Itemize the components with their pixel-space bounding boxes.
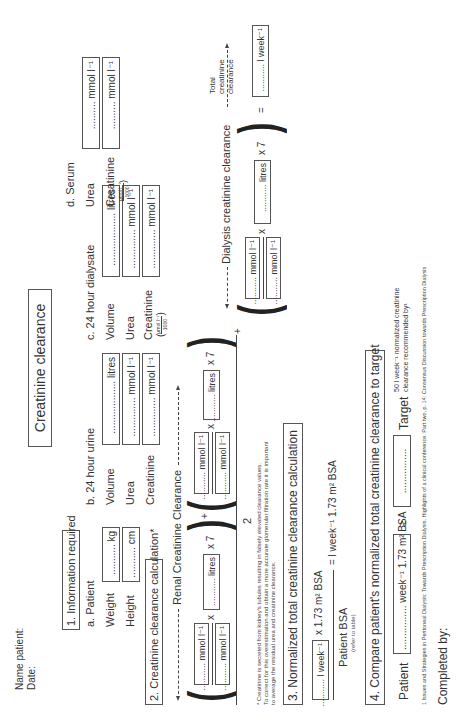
- patient-bsa-label: Patient BSA: [337, 608, 349, 667]
- times-sign: x: [205, 615, 216, 620]
- height-label: Height: [124, 595, 136, 627]
- serum-conversion: μmol l⁻¹1000): [117, 180, 130, 201]
- dialysate-conversion: (μmol l⁻¹1000): [155, 312, 168, 337]
- date-label: Date:: [26, 666, 37, 690]
- serum-conv-num: μmol l⁻¹: [117, 183, 124, 201]
- section3-title: 3. Normalized total creatinine clearance…: [283, 423, 303, 705]
- renal-paren-close-1: ): [180, 520, 234, 531]
- equals-sign: =: [256, 107, 267, 113]
- dialysis-dialysate-creatinine-field[interactable]: ........... mmol l⁻¹: [245, 237, 260, 299]
- weight-field[interactable]: ........... kg: [102, 527, 120, 582]
- greater-equal-sign: ≥: [396, 521, 408, 527]
- serum-urea-field[interactable]: .......... mmol l⁻¹: [82, 57, 100, 149]
- dialysate-urea-label: Urea: [124, 316, 136, 340]
- dialysate-heading: c. 24 hour dialysate: [84, 245, 96, 340]
- bsa-fraction-line: [333, 570, 334, 700]
- urine-volume-field[interactable]: ................... litres: [102, 353, 120, 445]
- serum-conv-den: 1000: [124, 186, 130, 197]
- fraction-line: [212, 623, 213, 685]
- renal-paren-open-1: (: [180, 691, 234, 702]
- total-label-line2: creatinine: [217, 59, 226, 94]
- reference-footnote: 1 Issues and Strategies in Peritoneal Di…: [421, 267, 427, 705]
- renal-serum-creatinine-field[interactable]: ........... mmol l⁻¹: [215, 623, 230, 685]
- target-note: 50 l week⁻¹ normalized creatinine cleara…: [392, 288, 410, 392]
- times-sign: x: [205, 424, 216, 429]
- footnote-line2: To correct for this overestimation and o…: [263, 442, 270, 705]
- urine-urea-label: Urea: [124, 481, 136, 505]
- times-seven: x 7: [205, 352, 216, 365]
- renal-urine-urea-field[interactable]: ........... mmol l⁻¹: [194, 432, 209, 494]
- dialysate-creatinine-field[interactable]: .............. mmol l⁻¹: [142, 185, 160, 277]
- serum-urea-label: Urea: [84, 183, 96, 207]
- times-seven: x 7: [256, 142, 267, 155]
- renal-arrow-right: [178, 387, 179, 465]
- plus-sign: +: [199, 513, 210, 519]
- divisor: 2: [241, 518, 253, 524]
- urine-creatinine-label: Creatinine: [144, 455, 156, 505]
- dialysis-clearance-label: Dialysis creatinine clearance: [220, 125, 232, 264]
- name-patient-label: Name patient:: [14, 628, 25, 690]
- serum-creatinine-label: Creatinine: [104, 157, 116, 207]
- patient-normalized-field[interactable]: ................ week⁻¹ 1.73 m² BSA: [393, 534, 411, 654]
- total-clearance-label: Total creatinine clearance: [208, 59, 235, 94]
- section2-title: 2. Creatinine clearance calculation*: [145, 559, 163, 705]
- creatinine-clearance-form: Name patient: Date: Creatinine clearance…: [0, 0, 464, 727]
- normalized-clearance-field[interactable]: ........... l week⁻¹: [312, 640, 329, 700]
- renal-clearance-label: Renal Creatinine Clearance: [171, 470, 183, 605]
- creatinine-footnote: * Creatinine is secreted from kidney's t…: [256, 442, 277, 705]
- footnote-line1: * Creatinine is secreted from kidney's t…: [256, 442, 263, 705]
- fraction-line: [263, 237, 264, 299]
- patient-compare-label: Patient: [397, 663, 411, 700]
- times-sign: x: [256, 229, 267, 234]
- total-label-line3: clearance: [226, 59, 235, 94]
- urine-volume-label: Volume: [104, 468, 116, 505]
- renal-urine-volume-field[interactable]: ........... litres: [203, 554, 220, 610]
- total-label-line1: Total: [208, 59, 217, 94]
- footnote-line3: to average the residual urea and creatin…: [270, 442, 277, 705]
- dialysate-creatinine-label: Creatinine: [142, 290, 154, 340]
- renal-paren-close-2: ): [180, 337, 234, 348]
- times-seven: x 7: [205, 536, 216, 549]
- normalized-result-label: = l week⁻¹ 1.73 m² BSA: [327, 460, 338, 565]
- serum-heading: d. Serum: [64, 162, 76, 207]
- dialysis-paren-open: (: [230, 305, 284, 316]
- height-field[interactable]: ........... cm: [122, 527, 140, 582]
- patient-heading: a. Patient: [84, 581, 96, 627]
- completed-by-label: Completed by:: [436, 628, 450, 705]
- target-label: Target: [397, 397, 411, 430]
- dialysis-serum-creatinine-field[interactable]: ........... mmol l⁻¹: [266, 237, 281, 299]
- renal-urine-volume-field-2[interactable]: ........... litres: [203, 370, 220, 420]
- total-clearance-field[interactable]: ........... l week⁻¹: [252, 25, 269, 97]
- fraction-line: [212, 432, 213, 494]
- serum-creatinine-field[interactable]: .......... mmol l⁻¹: [102, 57, 120, 149]
- target-note-line1: 50 l week⁻¹ normalized creatinine: [392, 288, 401, 392]
- dialysis-paren-close: ): [230, 123, 284, 134]
- divisor-line: [236, 335, 237, 705]
- plus-sign-dialysis: +: [232, 328, 243, 334]
- renal-serum-urea-field[interactable]: ........... mmol l⁻¹: [215, 432, 230, 494]
- target-note-line2: clearance recommended by¹: [401, 288, 410, 392]
- weight-label: Weight: [104, 593, 116, 627]
- dialysate-conv-den: 1000: [162, 319, 168, 330]
- page-title: Creatinine clearance: [28, 289, 52, 447]
- section1-title: 1. Information required: [62, 530, 80, 630]
- urine-urea-field[interactable]: .............. mmol l⁻¹: [122, 353, 140, 445]
- renal-arrow-left: [178, 609, 179, 699]
- section4-title: 4. Compare patient's normalized total cr…: [365, 350, 385, 705]
- urine-creatinine-field[interactable]: .............. mmol l⁻¹: [142, 353, 160, 445]
- renal-paren-open-2: (: [180, 501, 234, 512]
- renal-urine-creatinine-field[interactable]: ........... mmol l⁻¹: [194, 623, 209, 685]
- dialysis-volume-field[interactable]: ........... litres: [254, 160, 271, 224]
- dialysate-volume-label: Volume: [104, 303, 116, 340]
- refer-to-table-note: (refer to table): [350, 614, 356, 652]
- target-field[interactable]: ................: [393, 435, 411, 507]
- bsa-multiplier: x 1.73 m² BSA: [313, 571, 324, 635]
- dialysate-conv-num: μmol l⁻¹: [155, 316, 162, 334]
- dialysis-arrow-left: [227, 267, 228, 307]
- urine-heading: b. 24 hour urine: [84, 428, 96, 505]
